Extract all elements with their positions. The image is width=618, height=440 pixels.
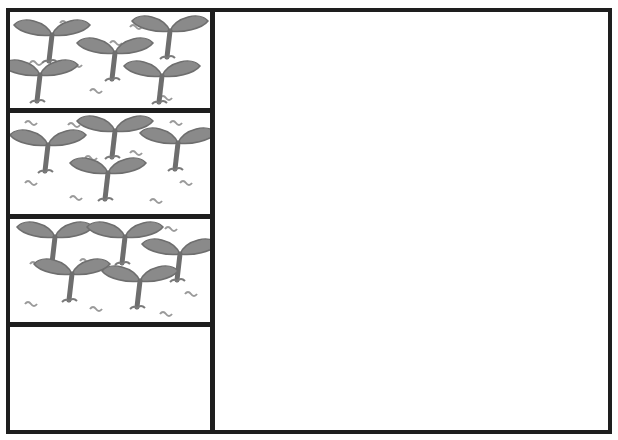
empty-bed-cell (10, 327, 210, 430)
seedlings-icon (10, 219, 210, 322)
bed-cell-2 (10, 113, 210, 214)
seedlings-icon (10, 13, 210, 108)
empty-plot-area (215, 12, 608, 430)
bed-cell-1 (10, 13, 210, 108)
bed-cell-3 (10, 219, 210, 322)
seedlings-icon (10, 113, 210, 214)
